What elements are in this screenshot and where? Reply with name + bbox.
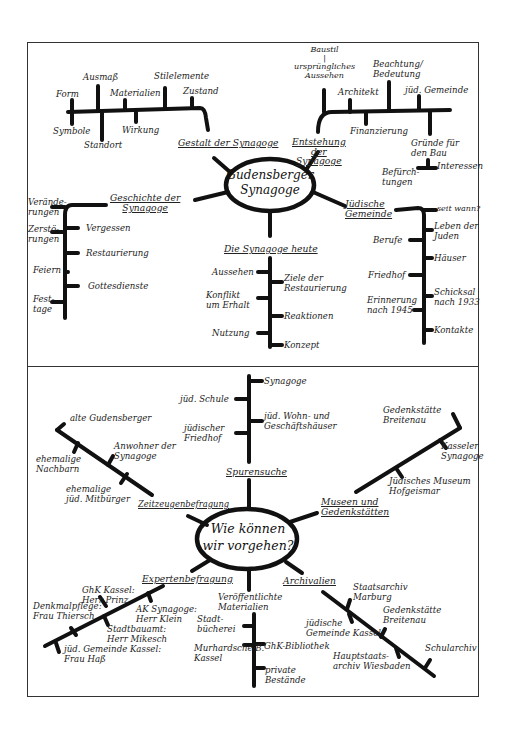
zeitzeugen-anwohner: Anwohner der Synagoge [114, 442, 176, 461]
spurensuche-synagoge: Synagoge [264, 377, 307, 387]
materialien-murhardsche: Murhardsche B. Kassel [194, 644, 264, 663]
entstehung-beachtung: Beachtung/ Bedeutung [373, 60, 423, 79]
spurensuche-wohnhaeuser: jüd. Wohn- und Geschäftshäuser [264, 412, 337, 431]
gemeinde-leben: Leben der Juden [434, 222, 478, 241]
gemeinde-kontakte: Kontakte [434, 326, 473, 336]
gestalt-ausmass: Ausmaß [83, 73, 118, 83]
materialien-private-bestaende: private Bestände [265, 666, 306, 685]
entstehung-baustil: Baustil | ursprüngliches Aussehen [294, 46, 355, 80]
archivalien-marburg: Staatsarchiv Marburg [353, 583, 408, 602]
experten-mikesch: Stadtbauamt: Herr Mikesch [107, 625, 167, 644]
heute-konflikt: Konflikt um Erhalt [206, 291, 250, 310]
zeitzeugen-mitbuerger: ehemalige jüd. Mitbürger [66, 485, 130, 504]
branch-archivalien-title: Archivalien [283, 576, 336, 586]
gemeinde-friedhof: Friedhof [368, 271, 405, 281]
gestalt-symbole: Symbole [53, 127, 90, 137]
materialien-ghk-bibliothek: GhK-Bibliothek [264, 642, 330, 652]
spurensuche-jued-schule: jüd. Schule [180, 395, 229, 405]
heute-aussehen: Aussehen [212, 268, 254, 278]
branch-museen-title: Museen und Gedenkstätten [321, 497, 389, 516]
branch-entstehung-title: Entstehung der Synagoge [292, 137, 346, 166]
experten-thiersch: Denkmalpflege: Frau Thiersch [33, 602, 102, 621]
entstehung-jued-gemeinde: jüd. Gemeinde [405, 86, 468, 96]
gemeinde-haeuser: Häuser [434, 254, 466, 264]
entstehung-finanzierung: Finanzierung [350, 127, 408, 137]
heute-nutzung: Nutzung [212, 329, 250, 339]
geschichte-zerstoerungen: Zerstö- rungen [28, 225, 59, 244]
experten-klein: AK Synagoge: Herr Klein [136, 605, 197, 624]
branch-gemeinde-title: Jüdische Gemeinde [345, 199, 392, 218]
gestalt-wirkung: Wirkung [122, 126, 159, 136]
branch-materialien-title: Veröffentlichte Materialien [218, 593, 282, 612]
branch-zeitzeugen-title: Zeitzeugenbefragung [138, 500, 229, 510]
archivalien-breitenau: Gedenkstätte Breitenau [383, 606, 441, 625]
branch-gestalt-title: Gestalt der Synagoge [178, 138, 278, 148]
upper-center-topic: Gudensberger Synagoge [226, 168, 314, 198]
lower-center-topic: Wie können wir vorgehen? [200, 520, 296, 554]
entstehung-gruende: Gründe für den Bau [411, 139, 459, 158]
materialien-stadtbuecherei: Stadt- bücherei [197, 615, 235, 634]
gemeinde-erinnerung: Erinnerung nach 1945 [367, 296, 417, 315]
branch-heute-title: Die Synagoge heute [224, 244, 318, 254]
gestalt-standort: Standort [84, 141, 122, 151]
geschichte-gottesdienste: Gottesdienste [88, 282, 148, 292]
gestalt-materialien: Materialien [110, 89, 161, 99]
archivalien-jued-gemeinde: jüdische Gemeinde Kassel [306, 619, 381, 638]
heute-konzept: Konzept [284, 341, 319, 351]
gemeinde-berufe: Berufe [373, 236, 402, 246]
gestalt-zustand: Zustand [183, 87, 219, 97]
spurensuche-friedhof: jüdischer Friedhof [184, 424, 224, 443]
entstehung-architekt: Architekt [338, 88, 379, 98]
branch-geschichte-title: Geschichte der Synagoge [110, 193, 180, 212]
geschichte-feiern: Feiern [33, 266, 61, 276]
branch-spurensuche-title: Spurensuche [226, 467, 287, 477]
geschichte-veraenderungen: Verände- rungen [28, 198, 67, 217]
museen-hofgeismar: Jüdisches Museum Hofgeismar [389, 477, 471, 496]
gemeinde-schicksal: Schicksal nach 1933 [434, 288, 480, 307]
branch-experten-title: Expertenbefragung [142, 574, 233, 584]
museen-breitenau: Gedenkstätte Breitenau [383, 406, 441, 425]
entstehung-befuerchtungen: Befürch- tungen [382, 168, 419, 187]
geschichte-festtage: Fest- tage [33, 295, 54, 314]
heute-ziele: Ziele der Restaurierung [284, 274, 347, 293]
geschichte-vergessen: Vergessen [86, 224, 131, 234]
geschichte-restaurierung: Restaurierung [86, 249, 149, 259]
heute-reaktionen: Reaktionen [284, 312, 333, 322]
museen-kasseler-synagoge: Kasseler Synagoge [441, 442, 484, 461]
experten-hass: jüd. Gemeinde Kassel: Frau Haß [64, 645, 161, 664]
gestalt-stilelemente: Stilelemente [154, 72, 209, 82]
entstehung-interessen: Interessen [437, 162, 483, 172]
gemeinde-seit-wann: seit wann? [437, 204, 480, 214]
zeitzeugen-alte-gudensberger: alte Gudensberger [70, 414, 151, 424]
archivalien-wiesbaden: Hauptstaats- archiv Wiesbaden [333, 652, 411, 671]
archivalien-schularchiv: Schularchiv [425, 644, 477, 654]
zeitzeugen-nachbarn: ehemalige Nachbarn [36, 455, 81, 474]
gestalt-form: Form [56, 90, 79, 100]
